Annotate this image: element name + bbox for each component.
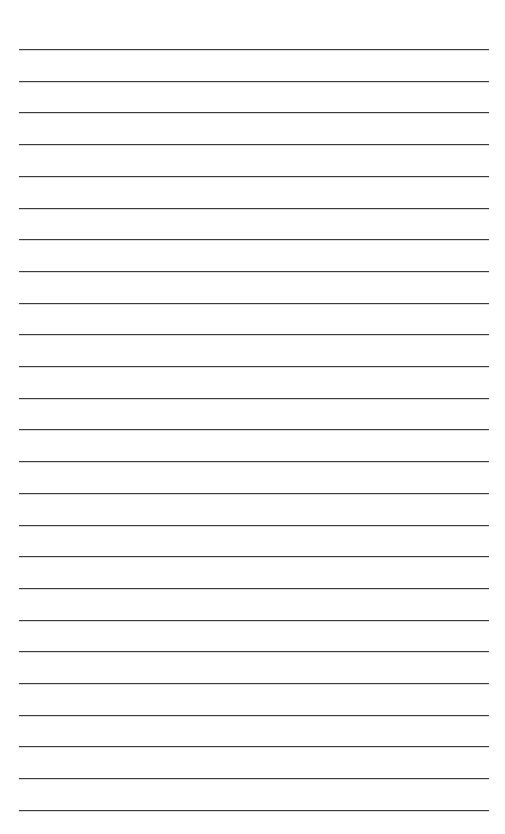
ruled-line (19, 334, 489, 335)
ruled-line (19, 493, 489, 494)
ruled-line (19, 746, 489, 747)
ruled-line (19, 525, 489, 526)
ruled-line (19, 556, 489, 557)
ruled-line (19, 398, 489, 399)
ruled-line (19, 461, 489, 462)
ruled-line-field (0, 0, 505, 834)
ruled-line (19, 112, 489, 113)
ruled-line (19, 588, 489, 589)
ruled-line (19, 208, 489, 209)
ruled-line (19, 81, 489, 82)
ruled-line (19, 176, 489, 177)
ruled-line (19, 620, 489, 621)
ruled-line (19, 271, 489, 272)
ruled-line (19, 239, 489, 240)
lined-paper-page (0, 0, 505, 834)
ruled-line (19, 778, 489, 779)
ruled-line (19, 366, 489, 367)
ruled-line (19, 810, 489, 811)
ruled-line (19, 49, 489, 50)
ruled-line (19, 429, 489, 430)
ruled-line (19, 651, 489, 652)
ruled-line (19, 144, 489, 145)
ruled-line (19, 303, 489, 304)
ruled-line (19, 715, 489, 716)
ruled-line (19, 683, 489, 684)
